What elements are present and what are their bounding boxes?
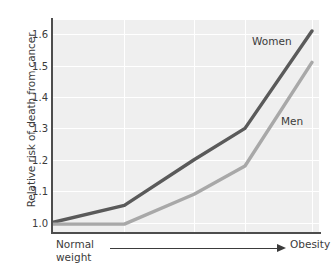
y-axis-tick-labels: 1.01.11.21.31.41.51.6 [18, 20, 48, 232]
arrow-head [277, 244, 286, 252]
x-axis-right-label: Obesity [290, 238, 330, 251]
y-axis-tick-label: 1.3 [18, 123, 48, 134]
y-axis-tick-label: 1.6 [18, 29, 48, 40]
y-axis-tick-label: 1.5 [18, 60, 48, 71]
x-axis-direction-arrow-icon [110, 244, 286, 253]
y-axis-tick-label: 1.2 [18, 154, 48, 165]
series-lines [52, 20, 320, 232]
y-axis-tick-label: 1.4 [18, 91, 48, 102]
y-axis-tick-label: 1.1 [18, 186, 48, 197]
arrow-shaft [110, 248, 278, 249]
x-axis-left-label-line1: Normal [56, 238, 94, 250]
plot-area [52, 20, 320, 232]
series-label-men: Men [281, 115, 303, 127]
x-axis-caption: Normal weight Obesity [52, 238, 331, 272]
x-axis-left-label-line2: weight [56, 251, 91, 263]
cancer-risk-line-chart: Relative risk of death from cancer 1.01.… [0, 0, 331, 275]
y-axis-spine [51, 18, 53, 234]
y-axis-tick-label: 1.0 [18, 217, 48, 228]
x-axis-spine [51, 232, 321, 234]
series-line-women [52, 31, 312, 223]
x-axis-left-label: Normal weight [56, 238, 94, 263]
series-label-women: Women [252, 35, 292, 47]
